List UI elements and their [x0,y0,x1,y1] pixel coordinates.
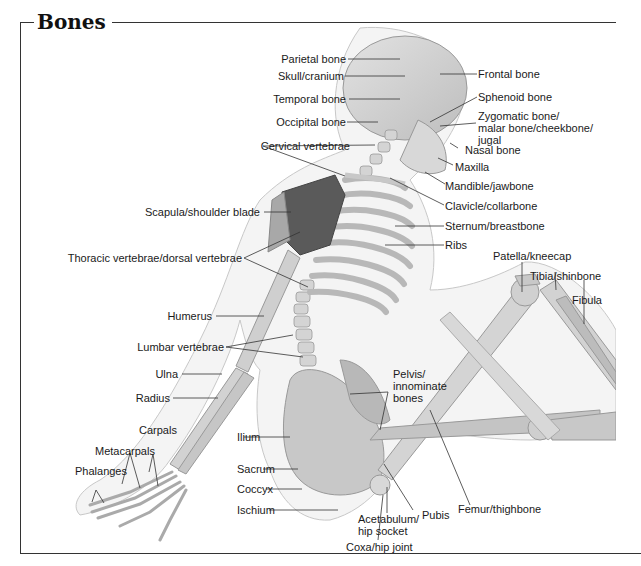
label-ulna: Ulna [140,368,178,380]
label-scapula-shoulder-blade: Scapula/shoulder blade [130,206,260,218]
label-cervical-vertebrae: Cervical vertebrae [220,140,350,152]
label-radius: Radius [120,392,170,404]
label-skull-cranium: Skull/cranium [250,70,344,82]
label-tibia-shinbone: Tibia/shinbone [530,270,601,282]
label-sphenoid-bone: Sphenoid bone [478,91,552,103]
label-sternum-breastbone: Sternum/breastbone [445,220,545,232]
label-carpals: Carpals [139,424,177,436]
label-temporal-bone: Temporal bone [252,93,346,105]
label-lumbar-vertebrae: Lumbar vertebrae [130,341,224,353]
label-patella-kneecap: Patella/kneecap [493,250,571,262]
label-maxilla: Maxilla [455,161,489,173]
label-humerus: Humerus [150,310,212,322]
label-femur-thighbone: Femur/thighbone [458,503,541,515]
label-acetabulum-hip-socket: Acetabulum/ hip socket [358,513,419,537]
label-phalanges: Phalanges [75,465,127,477]
label-metacarpals: Metacarpals [95,445,155,457]
label-frontal-bone: Frontal bone [478,68,540,80]
label-nasal-bone: Nasal bone [465,144,521,156]
label-ischium: Ischium [237,504,275,516]
page-title: Bones [34,11,112,33]
label-occipital-bone: Occipital bone [252,116,346,128]
label-coccyx: Coccyx [237,483,273,495]
label-clavicle-collarbone: Clavicle/collarbone [445,200,537,212]
label-pelvis-innominate-bones: Pelvis/ innominate bones [393,368,447,404]
label-ilium: Ilium [237,431,260,443]
label-sacrum: Sacrum [237,463,275,475]
label-mandible-jawbone: Mandible/jawbone [445,180,534,192]
label-thoracic-vertebrae: Thoracic vertebrae/dorsal vertebrae [40,252,242,264]
label-zygomatic-bone: Zygomatic bone/ malar bone/cheekbone/ ju… [478,110,593,146]
label-parietal-bone: Parietal bone [252,53,346,65]
label-coxa-hip-joint: Coxa/hip joint [346,541,413,553]
label-ribs: Ribs [445,239,467,251]
skull-shape [343,36,467,140]
label-fibula: Fibula [572,294,602,306]
label-pubis: Pubis [422,509,450,521]
